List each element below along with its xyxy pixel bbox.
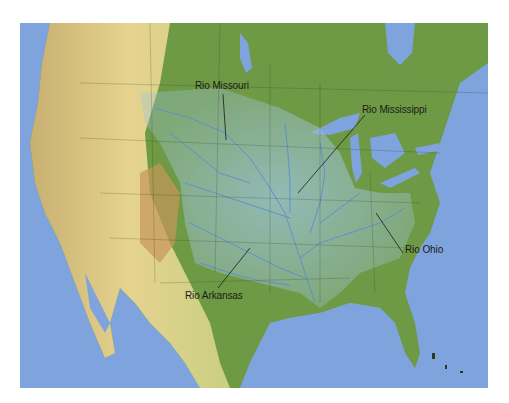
caribbean-islands [432,353,463,373]
label-rio-missouri: Rio Missouri [195,80,249,91]
label-rio-arkansas: Rio Arkansas [185,290,243,301]
label-rio-mississippi: Rio Mississippi [362,104,427,115]
map-canvas: Rio Missouri Rio Mississippi Rio Ohio Ri… [20,23,488,388]
terrain-map [20,23,488,388]
label-rio-ohio: Rio Ohio [405,244,443,255]
